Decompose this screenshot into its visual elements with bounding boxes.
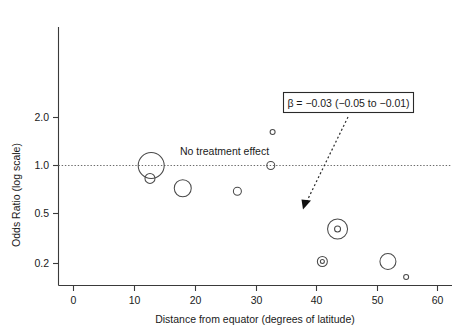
annotation-arrow-line [306,117,348,203]
data-bubble [320,260,324,264]
chart-canvas: 2.0 1.0 0.5 0.2 Odds Ratio (log scale) 0… [0,0,462,333]
y-axis-ticks [53,118,59,264]
data-bubble [174,180,191,197]
y-axis-title: Odds Ratio (log scale) [10,143,22,247]
x-ticklabel-6: 60 [432,294,444,306]
x-axis-ticks [74,286,438,292]
x-ticklabel-1: 10 [129,294,141,306]
y-ticklabel-2: 0.5 [34,207,49,219]
no-treatment-effect-label: No treatment effect [180,145,269,157]
data-bubble [233,187,241,195]
x-ticklabel-4: 40 [311,294,323,306]
y-ticklabel-0: 2.0 [34,111,49,123]
x-ticklabel-2: 20 [190,294,202,306]
x-ticklabel-3: 30 [251,294,263,306]
data-bubble [404,274,409,279]
beta-annotation-text: β = −0.03 (−0.05 to −0.01) [287,97,409,109]
data-bubble [328,219,348,239]
data-bubble [270,130,275,135]
annotation-arrow-head [302,200,312,210]
bubble-plot-figure: 2.0 1.0 0.5 0.2 Odds Ratio (log scale) 0… [0,0,462,333]
x-ticklabel-0: 0 [71,294,77,306]
x-axis-title: Distance from equator (degrees of latitu… [155,313,355,325]
y-ticklabel-3: 0.2 [34,257,49,269]
x-ticklabel-5: 50 [372,294,384,306]
data-bubble [380,254,396,270]
y-ticklabel-1: 1.0 [34,159,49,171]
bubble-series [138,130,408,280]
data-bubble [335,226,341,232]
data-bubble [317,257,327,267]
